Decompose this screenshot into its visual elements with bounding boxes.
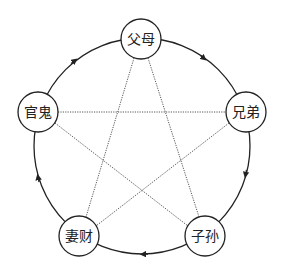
star-lines — [55, 58, 229, 226]
star-line-xiongdi-qicai — [96, 123, 229, 226]
node-guangui: 官鬼 — [18, 92, 58, 132]
node-zisun: 子孙 — [185, 216, 225, 256]
star-line-guangui-zisun — [55, 123, 188, 226]
node-label-xiongdi: 兄弟 — [232, 104, 260, 120]
star-line-fumu-zisun — [148, 58, 199, 217]
node-label-fumu: 父母 — [127, 31, 155, 47]
node-label-qicai: 妻财 — [65, 228, 93, 244]
node-xiongdi: 兄弟 — [226, 92, 266, 132]
node-fumu: 父母 — [121, 19, 161, 59]
relations-diagram: 父母 兄弟 子孙 妻财 官鬼 — [0, 0, 283, 278]
node-label-guangui: 官鬼 — [24, 104, 52, 120]
node-qicai: 妻财 — [59, 216, 99, 256]
node-label-zisun: 子孙 — [191, 228, 219, 244]
star-line-fumu-qicai — [86, 58, 134, 217]
